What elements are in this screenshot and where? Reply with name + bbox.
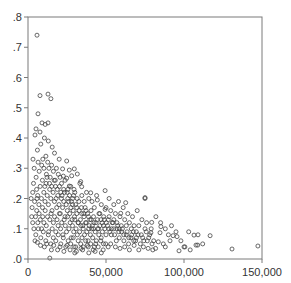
data-point <box>99 203 103 207</box>
data-point <box>51 221 55 225</box>
data-point <box>129 227 133 231</box>
data-point <box>55 218 59 222</box>
data-point <box>37 203 41 207</box>
data-point <box>122 239 126 243</box>
data-point <box>39 243 43 247</box>
data-point <box>67 168 71 172</box>
data-point <box>135 209 139 213</box>
data-point <box>103 189 107 193</box>
data-point <box>87 197 91 201</box>
data-point <box>57 157 61 161</box>
data-point <box>61 206 65 210</box>
data-point <box>117 200 121 204</box>
data-point <box>150 220 154 224</box>
y-tick-label: .0 <box>13 253 22 265</box>
data-point <box>159 225 163 229</box>
data-point <box>42 136 46 140</box>
data-point <box>109 209 113 213</box>
data-point <box>31 157 35 161</box>
data-point <box>34 175 38 179</box>
data-point <box>87 251 91 255</box>
data-point <box>54 239 58 243</box>
data-point <box>123 245 127 249</box>
data-point <box>187 230 191 234</box>
data-point <box>146 246 150 250</box>
data-point <box>67 227 71 231</box>
data-point <box>113 245 117 249</box>
data-point <box>31 190 35 194</box>
data-point <box>50 145 54 149</box>
data-point <box>41 157 45 161</box>
data-point <box>132 243 136 247</box>
data-point <box>192 233 196 237</box>
data-point <box>38 94 42 98</box>
data-point <box>68 248 72 252</box>
data-point <box>35 187 39 191</box>
data-point <box>145 221 149 225</box>
data-point <box>65 159 69 163</box>
y-tick-label: .5 <box>13 102 22 114</box>
data-point <box>208 234 212 238</box>
data-point <box>38 184 42 188</box>
data-point <box>34 127 38 131</box>
data-point <box>32 227 36 231</box>
data-point <box>158 231 162 235</box>
data-point <box>124 201 128 205</box>
data-point <box>40 178 44 182</box>
x-tick-label: 100,000 <box>164 266 204 278</box>
data-point <box>156 240 160 244</box>
y-tick-label: .2 <box>13 193 22 205</box>
data-point <box>91 236 95 240</box>
data-point <box>30 206 34 210</box>
data-point <box>49 97 53 101</box>
y-tick-label: .7 <box>13 41 22 53</box>
data-point <box>39 142 43 146</box>
data-point <box>114 239 118 243</box>
data-point <box>43 200 47 204</box>
data-point <box>112 203 116 207</box>
data-point <box>85 190 89 194</box>
data-point <box>58 184 62 188</box>
data-point <box>37 169 41 173</box>
data-point <box>95 194 99 198</box>
x-tick-label: 50,000 <box>89 266 123 278</box>
data-point <box>33 133 37 137</box>
data-point <box>230 247 234 251</box>
data-point <box>122 233 126 237</box>
data-point <box>80 194 84 198</box>
data-point <box>32 166 36 170</box>
data-point <box>44 224 48 228</box>
data-point <box>59 227 63 231</box>
data-point <box>131 215 135 219</box>
data-point <box>163 245 167 249</box>
data-point <box>75 172 79 176</box>
data-point <box>29 197 33 201</box>
y-tick-label: .3 <box>13 162 22 174</box>
data-point <box>41 215 45 219</box>
data-point <box>78 230 82 234</box>
data-point <box>46 160 50 164</box>
data-point <box>168 239 172 243</box>
data-point <box>141 245 145 249</box>
data-point <box>53 151 57 155</box>
x-axis: 050,000100,000150,000 <box>25 259 282 278</box>
data-point <box>77 200 81 204</box>
x-tick-label: 150,000 <box>242 266 282 278</box>
data-point <box>84 239 88 243</box>
data-point <box>38 130 42 134</box>
data-point <box>154 215 158 219</box>
y-tick-label: .1 <box>13 223 22 235</box>
data-point <box>72 167 76 171</box>
data-point <box>63 224 67 228</box>
data-point <box>188 248 192 252</box>
data-point <box>90 200 94 204</box>
data-point <box>39 197 43 201</box>
data-point <box>166 233 170 237</box>
data-point <box>179 239 183 243</box>
data-point <box>39 236 43 240</box>
data-point <box>36 112 40 116</box>
data-point <box>123 218 127 222</box>
data-point <box>61 167 65 171</box>
data-point <box>121 206 125 210</box>
data-point <box>62 249 66 253</box>
